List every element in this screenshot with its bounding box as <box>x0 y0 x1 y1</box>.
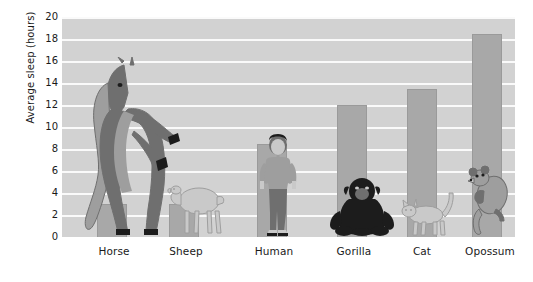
x-tick-label-cat: Cat <box>413 245 431 257</box>
gridline <box>62 39 515 41</box>
x-tick-label-gorilla: Gorilla <box>337 245 372 257</box>
bar-human <box>257 144 287 238</box>
bar-horse <box>97 204 127 237</box>
y-tick-label: 18 <box>26 34 58 44</box>
gridline <box>62 17 515 19</box>
y-tick-label: 10 <box>26 122 58 132</box>
y-tick-label: 6 <box>26 166 58 176</box>
bar-cat <box>407 89 437 238</box>
y-tick-label: 8 <box>26 144 58 154</box>
plot-area <box>62 17 515 237</box>
gridline <box>62 127 515 129</box>
x-tick-label-human: Human <box>255 245 293 257</box>
gridline <box>62 105 515 107</box>
y-tick-label: 20 <box>26 12 58 22</box>
gridline <box>62 215 515 217</box>
y-tick-label: 4 <box>26 188 58 198</box>
x-tick-label-sheep: Sheep <box>169 245 202 257</box>
sleep-bar-chart: Average sleep (hours) 20181614121086420 <box>0 0 533 282</box>
x-axis-tick-labels: HorseSheepHumanGorillaCatOpossum <box>62 245 515 265</box>
x-tick-label-opossum: Opossum <box>465 245 515 257</box>
bar-gorilla <box>337 105 367 237</box>
gridline <box>62 83 515 85</box>
bar-sheep <box>169 204 199 237</box>
gridline <box>62 61 515 63</box>
gridline <box>62 193 515 195</box>
y-axis-tick-labels: 20181614121086420 <box>26 17 58 237</box>
y-tick-label: 0 <box>26 232 58 242</box>
gridline <box>62 171 515 173</box>
bar-opossum <box>472 34 502 238</box>
x-tick-label-horse: Horse <box>98 245 129 257</box>
y-tick-label: 2 <box>26 210 58 220</box>
y-tick-label: 12 <box>26 100 58 110</box>
y-tick-label: 16 <box>26 56 58 66</box>
y-tick-label: 14 <box>26 78 58 88</box>
gridline <box>62 149 515 151</box>
